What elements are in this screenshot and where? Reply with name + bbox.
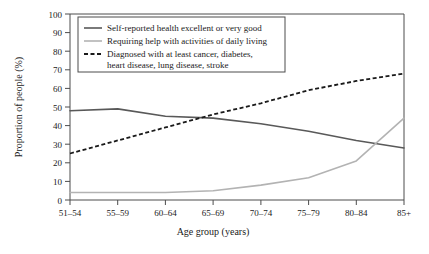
legend-entry-requiring-help[interactable]: Requiring help with activities of daily … [84, 36, 267, 46]
y-tick-label: 10 [53, 177, 63, 187]
legend-entry-diagnosed[interactable]: Diagnosed with at least cancer, diabetes… [84, 49, 253, 70]
y-tick-label: 50 [53, 103, 63, 113]
x-tick-label: 60–64 [154, 208, 177, 218]
y-tick-label: 0 [58, 196, 63, 206]
y-tick-label: 40 [53, 121, 63, 131]
legend-entry-self-reported-health[interactable]: Self-reported health excellent or very g… [84, 23, 262, 33]
line-chart: 100 90 80 70 60 50 40 30 20 10 0 51–54 5… [0, 0, 429, 254]
y-tick-label: 60 [53, 84, 63, 94]
x-tick-label: 55–59 [106, 208, 129, 218]
legend-label-continued: heart disease, lung disease, stroke [107, 60, 228, 70]
y-tick-label: 30 [53, 140, 63, 150]
y-axis-title: Proportion of people (%) [13, 57, 25, 157]
legend-label: Requiring help with activities of daily … [107, 36, 267, 46]
x-axis-title: Age group (years) [177, 226, 250, 238]
x-tick-label: 70–74 [250, 208, 273, 218]
x-tick-label: 65–69 [202, 208, 225, 218]
y-tick-label: 80 [53, 47, 63, 57]
chart-legend: Self-reported health excellent or very g… [78, 17, 285, 72]
legend-label: Self-reported health excellent or very g… [107, 23, 262, 33]
y-tick-label: 70 [53, 65, 63, 75]
x-tick-label: 51–54 [59, 208, 82, 218]
y-tick-label: 20 [53, 158, 63, 168]
y-tick-label: 100 [49, 10, 63, 20]
legend-label: Diagnosed with at least cancer, diabetes… [107, 49, 253, 59]
y-tick-label: 90 [53, 28, 63, 38]
x-tick-label: 85+ [397, 208, 411, 218]
x-tick-label: 75–79 [297, 208, 320, 218]
x-tick-label: 80–84 [345, 208, 368, 218]
chart-container: 100 90 80 70 60 50 40 30 20 10 0 51–54 5… [0, 0, 429, 254]
